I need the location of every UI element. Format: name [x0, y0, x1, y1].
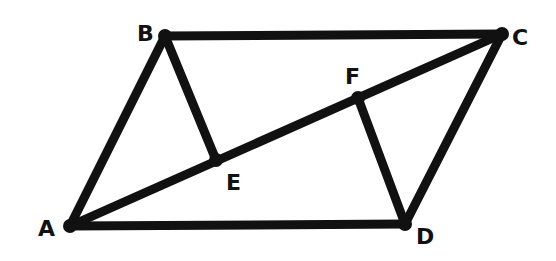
segment-da: [70, 224, 405, 226]
segment-be: [165, 36, 216, 160]
vertex-f: [351, 91, 365, 105]
vertex-e: [209, 153, 223, 167]
segment-bc: [165, 34, 502, 36]
label-a: A: [38, 216, 55, 241]
segment-ac: [70, 34, 502, 226]
vertex-a: [63, 219, 77, 233]
parallelogram-diagram: ABCDEF: [0, 0, 556, 261]
vertex-d: [398, 217, 412, 231]
label-b: B: [137, 21, 154, 46]
segment-df: [358, 98, 405, 224]
segment-cd: [405, 34, 502, 224]
label-c: C: [512, 25, 528, 50]
label-d: D: [416, 224, 434, 249]
label-e: E: [226, 170, 241, 195]
label-f: F: [345, 64, 360, 89]
vertex-b: [158, 29, 172, 43]
segments-group: [70, 34, 502, 226]
vertex-c: [495, 27, 509, 41]
segment-ab: [70, 36, 165, 226]
